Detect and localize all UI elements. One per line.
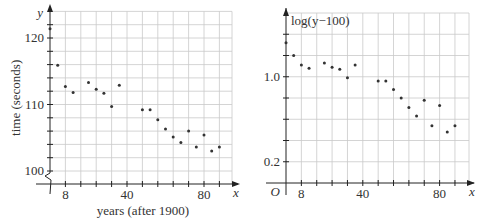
origin-label: O — [271, 184, 281, 199]
data-point — [292, 54, 295, 57]
right-labels: 0.21.084080log(y−100)xO — [264, 13, 475, 201]
data-point — [346, 76, 349, 79]
data-point — [384, 80, 387, 83]
data-point — [323, 61, 326, 64]
data-point — [308, 67, 311, 70]
right-data-points — [285, 41, 457, 133]
data-point — [285, 41, 288, 44]
data-point — [331, 66, 334, 69]
x-axis-symbol: x — [468, 184, 475, 199]
data-point — [453, 124, 456, 127]
right-scatter-chart: 0.21.084080log(y−100)xO — [0, 0, 478, 223]
x-tick-label: 80 — [433, 186, 446, 201]
right-axes — [266, 8, 475, 195]
data-point — [354, 64, 357, 67]
data-point — [400, 97, 403, 100]
x-tick-label: 40 — [356, 186, 369, 201]
data-point — [392, 88, 395, 91]
data-point — [338, 68, 341, 71]
data-point — [300, 64, 303, 67]
y-arrow-icon — [283, 8, 289, 16]
data-point — [438, 104, 441, 107]
data-point — [377, 80, 380, 83]
data-point — [415, 115, 418, 118]
y-tick-label: 1.0 — [264, 69, 280, 84]
data-point — [430, 124, 433, 127]
y-tick-label: 0.2 — [264, 154, 280, 169]
y-axis-label: log(y−100) — [291, 13, 350, 28]
data-point — [446, 131, 449, 134]
data-point — [423, 99, 426, 102]
x-tick-label: 8 — [298, 186, 305, 201]
data-point — [407, 106, 410, 109]
right-grid — [286, 13, 469, 183]
